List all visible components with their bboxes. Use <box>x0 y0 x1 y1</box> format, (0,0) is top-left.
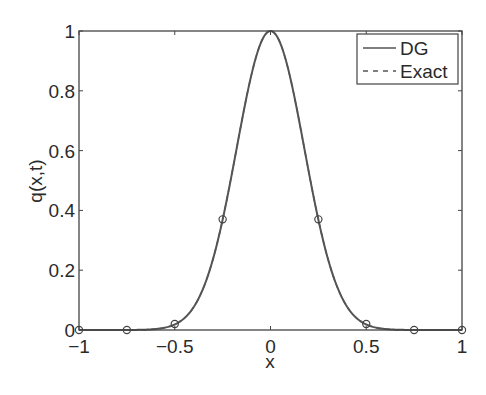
node-markers <box>75 216 465 334</box>
y-tick-label: 0.6 <box>49 141 75 162</box>
y-tick-label: 0 <box>64 320 75 341</box>
x-tick-label: 0.5 <box>353 336 379 357</box>
chart: −1−0.500.5100.20.40.60.81 x q(x,t) DG Ex… <box>0 0 486 395</box>
x-axis-label: x <box>265 351 275 372</box>
y-tick-label: 0.8 <box>49 81 75 102</box>
legend-label-dg: DG <box>400 38 429 59</box>
x-tick-label: −0.5 <box>156 336 194 357</box>
legend: DG Exact <box>357 34 458 84</box>
y-axis-label: q(x,t) <box>25 159 46 202</box>
legend-label-exact: Exact <box>400 61 448 82</box>
x-tick-label: 1 <box>457 336 468 357</box>
y-tick-label: 0.4 <box>49 200 76 221</box>
y-tick-label: 0.2 <box>49 260 75 281</box>
y-tick-label: 1 <box>64 21 75 42</box>
